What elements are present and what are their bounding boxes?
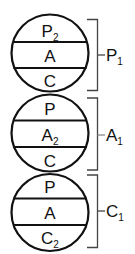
segment-label: C2	[41, 229, 59, 250]
circle-child: P A C2	[12, 174, 89, 251]
segment-label: A2	[42, 126, 59, 147]
bracket-child: C1	[87, 175, 124, 248]
bracket-adult: A1	[87, 98, 123, 170]
segment-label: P	[44, 100, 55, 119]
segment-label: P	[44, 178, 55, 197]
bracket-label: A1	[106, 126, 123, 147]
ego-state-diagram: P2 A C P1 P A2 C A1 P A C2 C1	[0, 0, 135, 254]
segment-label: C	[44, 152, 56, 171]
bracket-label: P1	[106, 46, 123, 67]
segment-label: P2	[42, 22, 59, 43]
circle-parent: P2 A C	[12, 15, 89, 92]
segment-label: A	[44, 204, 56, 223]
bracket-label: C1	[106, 202, 124, 223]
segment-label: A	[44, 47, 56, 66]
segment-label: C	[44, 72, 56, 91]
circle-adult: P A2 C	[12, 95, 89, 172]
bracket-parent: P1	[87, 20, 123, 91]
